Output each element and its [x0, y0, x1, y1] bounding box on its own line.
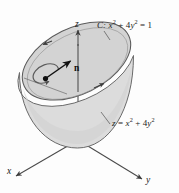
surface-equation-label: z = x2 + 4y2 — [112, 119, 155, 128]
surface-term2-exp: 2 — [151, 116, 154, 123]
surface-equals: = — [118, 118, 123, 128]
curve-label-name: C: — [97, 20, 106, 30]
curve-term1-exp: 2 — [113, 18, 116, 25]
curve-rhs: 1 — [148, 20, 153, 30]
normal-vector-label: n — [74, 64, 79, 74]
normal-base-point — [43, 76, 48, 81]
surface-lhs: z — [112, 118, 116, 128]
curve-plus: + — [118, 20, 123, 30]
surface-plus: + — [135, 118, 140, 128]
curve-equation-label: C: x2 + 4y2 = 1 — [97, 21, 152, 30]
curve-term2-exp: 2 — [135, 18, 138, 25]
vector-calculus-figure: C: x2 + 4y2 = 1 z = x2 + 4y2 z x y n — [0, 0, 179, 193]
z-axis-label: z — [75, 20, 79, 30]
y-axis-label: y — [146, 176, 150, 186]
curve-equals: = — [140, 20, 145, 30]
surface-term1-exp: 2 — [130, 116, 133, 123]
x-axis-label: x — [7, 167, 11, 177]
